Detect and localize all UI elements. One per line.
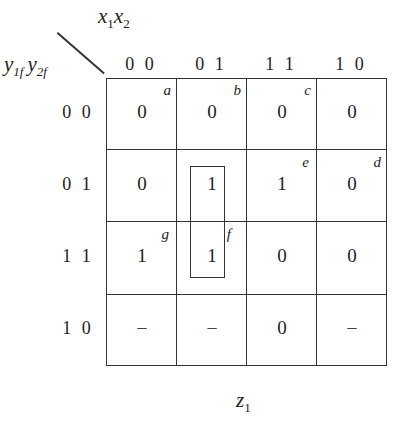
cell-value: 0 xyxy=(247,245,317,267)
row-header-11: 1 1 xyxy=(58,246,98,267)
cell-r00-c00: 0 a xyxy=(107,79,177,151)
cell-r01-c11: 1 e xyxy=(247,151,317,223)
column-header-01: 0 1 xyxy=(176,54,246,75)
row-var-y1f-subscript: 1f xyxy=(13,64,23,79)
cell-value: 0 xyxy=(247,101,317,123)
row-header-01: 0 1 xyxy=(58,174,98,195)
state-tag-c: c xyxy=(304,82,311,99)
cell-r01-c10: 0 d xyxy=(317,151,387,223)
karnaugh-map-grid: 0 a 0 b 0 c 0 0 1 1 e 0 d 1 g 1 f 0 0 – xyxy=(106,78,387,366)
cell-r11-c11: 0 xyxy=(247,223,317,295)
state-tag-g: g xyxy=(162,226,170,243)
row-var-y1f: y xyxy=(4,52,13,76)
output-var-z: z xyxy=(236,388,244,412)
state-tag-b: b xyxy=(234,82,242,99)
column-header-10: 1 0 xyxy=(316,54,386,75)
cell-r11-c10: 0 xyxy=(317,223,387,295)
output-label: z1 xyxy=(236,388,251,413)
state-tag-f: f xyxy=(227,226,231,243)
column-var-x1: x xyxy=(98,4,107,28)
row-header-00: 0 0 xyxy=(58,102,98,123)
row-variables-label: y1f y2f xyxy=(4,52,47,77)
cell-value: 1 xyxy=(247,173,317,195)
state-tag-e: e xyxy=(302,154,309,171)
state-tag-d: d xyxy=(374,154,382,171)
cell-r00-c10: 0 xyxy=(317,79,387,151)
cell-r00-c11: 0 c xyxy=(247,79,317,151)
column-variables-label: x1x2 xyxy=(98,4,130,29)
cell-value: 0 xyxy=(317,245,387,267)
cell-value-dont-care: – xyxy=(317,317,387,338)
cell-value: 0 xyxy=(177,101,247,123)
cell-r10-c10: – xyxy=(317,295,387,367)
output-var-subscript: 1 xyxy=(244,400,251,415)
cell-value: 0 xyxy=(247,317,317,339)
cell-value-dont-care: – xyxy=(177,317,247,338)
column-var-x1-subscript: 1 xyxy=(107,16,114,31)
cell-r10-c01: – xyxy=(177,295,247,367)
grouping-loop xyxy=(190,166,225,278)
row-header-10: 1 0 xyxy=(58,318,98,339)
corner-diagonal-line xyxy=(57,32,105,74)
state-tag-a: a xyxy=(164,82,172,99)
cell-r10-c00: – xyxy=(107,295,177,367)
cell-value: 1 xyxy=(107,245,177,267)
row-var-y2f-subscript: 2f xyxy=(37,64,47,79)
column-header-00: 0 0 xyxy=(106,54,176,75)
column-header-11: 1 1 xyxy=(246,54,316,75)
cell-r00-c01: 0 b xyxy=(177,79,247,151)
column-var-x2-subscript: 2 xyxy=(123,16,130,31)
cell-value: 0 xyxy=(107,101,177,123)
column-var-x2: x xyxy=(114,4,123,28)
cell-value: 0 xyxy=(317,101,387,123)
cell-r11-c00: 1 g xyxy=(107,223,177,295)
row-var-y2f: y xyxy=(27,52,36,76)
cell-r01-c00: 0 xyxy=(107,151,177,223)
cell-value-dont-care: – xyxy=(107,317,177,338)
cell-r10-c11: 0 xyxy=(247,295,317,367)
cell-value: 0 xyxy=(317,173,387,195)
cell-value: 0 xyxy=(107,173,177,195)
